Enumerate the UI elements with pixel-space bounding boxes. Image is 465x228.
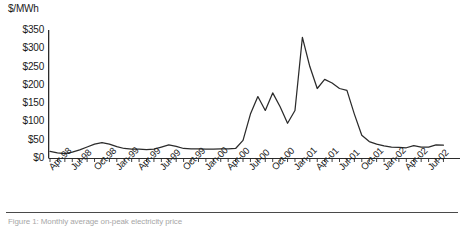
caption-divider [6, 212, 458, 213]
chart-figure: $/MWh $0$50$100$150$200$250$300$350 Apr-… [0, 0, 465, 228]
figure-caption: Figure 1: Monthly average on-peak electr… [8, 217, 182, 226]
x-axis-tick-label: Oct-01 [359, 146, 385, 172]
x-axis-tick-label: Apr-98 [47, 146, 73, 172]
x-axis-tick-label: Jul-99 [158, 148, 183, 173]
x-axis-tick-label: Oct-99 [181, 146, 207, 172]
x-axis-tick-label: Oct-98 [92, 146, 118, 172]
x-axis-tick-label: Apr-99 [136, 146, 162, 172]
x-axis-tick-labels: Apr-98Jul-98Oct-98Jan-99Apr-99Jul-99Oct-… [0, 0, 465, 228]
x-axis-tick-label: Jan-00 [203, 145, 230, 172]
x-axis-tick-label: Jul-00 [247, 148, 272, 173]
x-axis-tick-label: Jan-02 [381, 145, 408, 172]
x-axis-tick-label: Apr-01 [314, 146, 340, 172]
x-axis-tick-label: Apr-02 [403, 146, 429, 172]
x-axis-tick-label: Jul-01 [337, 148, 362, 173]
x-axis-tick-label: Jan-99 [114, 145, 141, 172]
x-axis-tick-label: Jul-02 [426, 148, 451, 173]
x-axis-tick-label: Apr-00 [225, 146, 251, 172]
x-axis-tick-label: Jul-98 [69, 148, 94, 173]
x-axis-tick-label: Jan-01 [292, 145, 319, 172]
x-axis-tick-label: Oct-00 [270, 146, 296, 172]
